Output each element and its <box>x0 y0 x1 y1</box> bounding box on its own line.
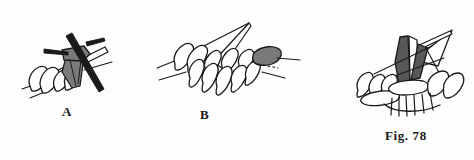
figure-c-hanging-strand-4 <box>414 95 415 115</box>
figure-b-yarn-strand-lower-right <box>262 72 285 78</box>
figure-b <box>157 23 300 95</box>
figure-c-hanging-strand-3 <box>406 96 407 116</box>
figure-b-bottom-loop-4 <box>231 65 247 92</box>
figure-a-needle-crossbar-right <box>86 38 105 46</box>
figure-b-grey-loop <box>253 47 282 66</box>
figure-b-label: B <box>200 107 209 123</box>
figure-b-yarn-strand-lower-left <box>159 72 186 80</box>
figure-a-label: A <box>62 104 72 120</box>
figure-b-yarn-strand-upper-right <box>277 58 300 60</box>
figure-a <box>22 33 112 98</box>
figure-c <box>357 30 464 116</box>
illustration-plate: A B Fig. 78 <box>0 0 474 160</box>
figure-caption: Fig. 78 <box>385 128 427 144</box>
